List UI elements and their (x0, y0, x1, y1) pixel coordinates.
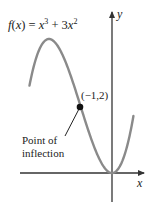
x-axis-label: x (136, 176, 143, 190)
annotation-leader-line (65, 107, 80, 136)
annotation-line-2: inflection (22, 147, 65, 159)
inflection-point-coordinates: (−1,2) (81, 89, 109, 102)
inflection-point-marker (77, 104, 84, 111)
annotation-line-1: Point of (22, 134, 57, 146)
function-label: f(x) = x3 + 3x2 (8, 17, 77, 32)
graph-figure: f(x) = x3 + 3x2 y x (−1,2) Point of infl… (0, 0, 152, 209)
y-axis-label: y (116, 7, 123, 21)
